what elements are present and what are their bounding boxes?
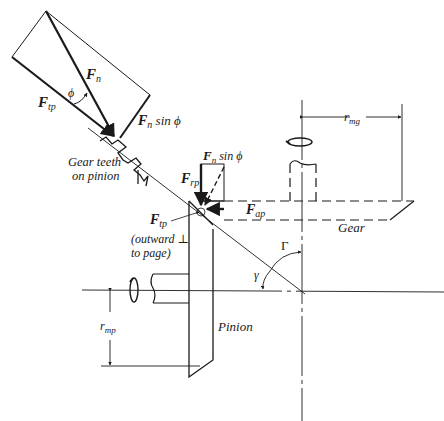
- outward-label-line1: (outward ⊥: [131, 232, 189, 246]
- ftp-label: Ftp: [37, 94, 56, 112]
- force-rectangle-mid: [201, 164, 224, 209]
- pinion-shaft: [151, 274, 189, 303]
- rmp-label: rmp: [100, 319, 116, 335]
- angle-arcs: [263, 252, 301, 289]
- gear-rotation-icon: [286, 138, 312, 146]
- rmp-dimension: [101, 291, 200, 366]
- fap-label: Fap: [245, 202, 265, 219]
- fn-sin-phi-mid-label: Fn sin ϕ: [202, 148, 242, 165]
- gamma-lower-label: γ: [254, 268, 259, 282]
- gear-label: Gear: [338, 220, 366, 235]
- ftp-vector: [12, 57, 113, 136]
- outward-label-line2: to page): [131, 246, 171, 260]
- force-parallelogram-top: [12, 11, 150, 138]
- fn-label: Fn: [85, 66, 101, 84]
- gear-teeth-label-line1: Gear teeth: [68, 155, 121, 169]
- gear-teeth-label-line2: on pinion: [72, 169, 120, 183]
- frp-label: Frp: [180, 171, 199, 188]
- gamma-upper-label: Γ: [281, 238, 289, 253]
- rmg-label: rmg: [344, 109, 361, 126]
- phi-label: ϕ: [68, 86, 74, 100]
- ftp-lower-label: Ftp: [149, 212, 167, 229]
- bevel-gear-diagram: Fn Ftp ϕ Fn sin ϕ Gear teeth on pinion F…: [0, 0, 444, 421]
- pitch-cone-line: [88, 128, 305, 294]
- pinion-axis: [82, 290, 444, 292]
- fn-sin-phi-top-label: Fn sin ϕ: [137, 113, 181, 130]
- pinion-label: Pinion: [217, 319, 253, 334]
- pinion-body: [189, 201, 213, 377]
- fn-vector: [46, 11, 114, 136]
